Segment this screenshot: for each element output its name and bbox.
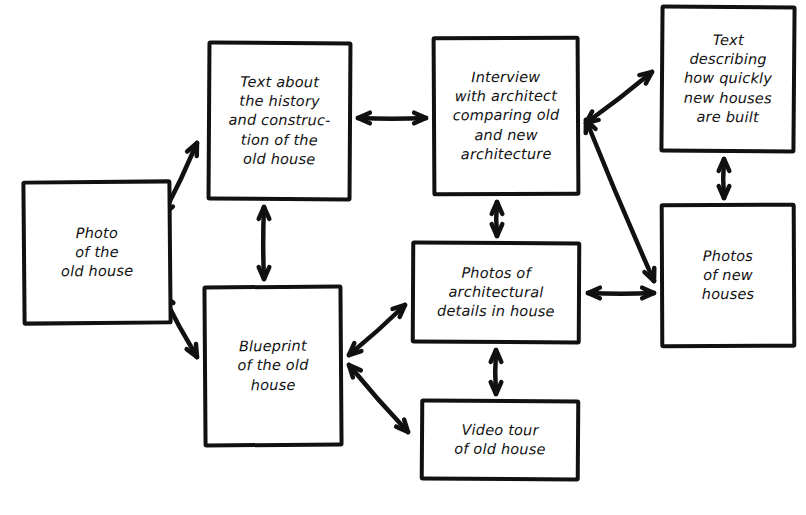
node-photos-architectural-details[interactable]: Photos of architectural details in house: [411, 241, 582, 345]
node-text-history-construction[interactable]: Text about the history and construc- tio…: [207, 41, 353, 202]
node-photos-new-houses[interactable]: Photos of new houses: [660, 203, 797, 349]
node-label: Interview with architect comparing old a…: [446, 65, 565, 166]
diagram-canvas: Photo of the old house Text about the hi…: [0, 0, 806, 515]
edge-photos-details-to-video-tour: [491, 350, 502, 394]
edge-interview-to-text-new-houses: [586, 72, 652, 123]
node-label: Text describing how quickly new houses a…: [678, 28, 779, 129]
node-label: Blueprint of the old house: [231, 335, 315, 397]
edge-text-new-houses-to-photos-new-houses: [719, 159, 730, 198]
node-blueprint-old-house[interactable]: Blueprint of the old house: [202, 285, 343, 448]
edge-text-history-to-blueprint: [259, 207, 270, 279]
edge-blueprint-to-video-tour: [349, 365, 408, 432]
edge-interview-to-photos-details: [492, 202, 503, 236]
node-label: Photos of new houses: [696, 244, 761, 306]
edge-blueprint-to-photos-details: [349, 305, 405, 355]
node-label: Text about the history and construc- tio…: [222, 70, 337, 171]
node-label: Photo of the old house: [55, 221, 140, 284]
node-video-tour-old-house[interactable]: Video tour of old house: [420, 398, 581, 481]
node-text-new-houses-speed[interactable]: Text describing how quickly new houses a…: [659, 4, 796, 153]
node-label: Photos of architectural details in house: [431, 261, 561, 324]
node-label: Video tour of old house: [448, 418, 552, 461]
node-interview-architect[interactable]: Interview with architect comparing old a…: [432, 36, 581, 197]
edge-interview-to-photos-new-houses: [586, 120, 655, 281]
node-photo-old-house[interactable]: Photo of the old house: [21, 179, 172, 325]
edge-photos-details-to-photos-new-houses: [588, 288, 654, 299]
edge-text-history-to-interview: [358, 113, 426, 124]
